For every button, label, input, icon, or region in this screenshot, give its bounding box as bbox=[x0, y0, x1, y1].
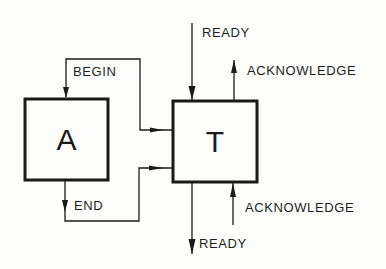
diagram-canvas: A T BEGIN END READY ACKNOWLEDGE ACKNOWLE… bbox=[0, 0, 386, 269]
ready-out-label: READY bbox=[199, 237, 247, 250]
end-label: END bbox=[74, 199, 103, 212]
block-t-label: T bbox=[173, 127, 257, 157]
acknowledge-out-label: ACKNOWLEDGE bbox=[247, 64, 356, 77]
acknowledge-out-arrowhead-icon bbox=[231, 60, 237, 73]
acknowledge-in-arrowhead-icon bbox=[230, 183, 236, 197]
block-a-label: A bbox=[25, 125, 108, 155]
end-arrowhead-icon bbox=[62, 200, 68, 212]
ready-out-arrowhead-icon bbox=[189, 239, 196, 254]
ready-in-arrowhead-icon bbox=[189, 86, 196, 100]
end-t-arrowhead-icon bbox=[149, 166, 163, 171]
begin-label: BEGIN bbox=[73, 65, 116, 78]
ready-in-label: READY bbox=[202, 26, 250, 39]
begin-arrowhead-icon bbox=[63, 87, 69, 98]
begin-t-arrowhead-icon bbox=[150, 128, 163, 133]
end-line bbox=[65, 168, 172, 221]
acknowledge-in-label: ACKNOWLEDGE bbox=[245, 201, 354, 214]
